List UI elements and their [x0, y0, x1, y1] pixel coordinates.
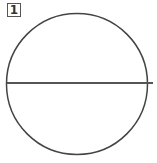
- circle-diagram: [0, 0, 157, 163]
